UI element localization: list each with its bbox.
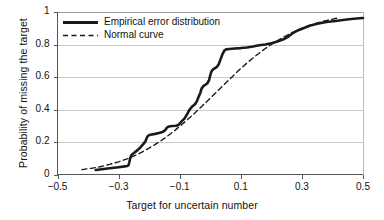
chart-figure: 00.20.40.60.81 −0.5−0.3−0.10.10.30.5 Emp… [0,0,384,220]
x-tick-label: 0.3 [282,181,322,192]
data-series-layer [82,18,363,170]
y-axis-title-wrapper: Probability of missing the target [17,0,33,193]
x-tick-label: 0.5 [343,181,383,192]
x-axis-title: Target for uncertain number [0,199,384,211]
x-tick-label: 0.1 [221,181,261,192]
legend-label-2: Normal curve [104,29,163,40]
legend-swatches [63,23,98,36]
series-line [82,18,337,169]
x-tick-label: −0.3 [99,181,139,192]
y-axis-title: Probability of missing the target [17,0,29,193]
legend-label-1: Empirical error distribution [104,16,220,27]
series-line [96,18,363,170]
x-tick-label: −0.5 [38,181,78,192]
x-tick-label: −0.1 [160,181,200,192]
